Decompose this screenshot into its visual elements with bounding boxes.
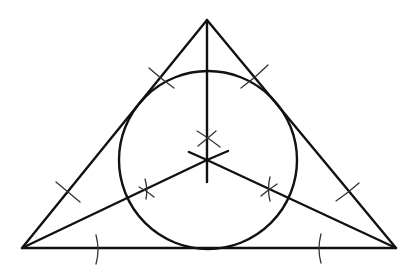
- construction-arc-base-left: [96, 235, 98, 264]
- bisector-extension-left: [189, 152, 207, 160]
- construction-arc-left-side-lower: [56, 182, 80, 202]
- bisector-extension-right: [207, 151, 228, 160]
- triangle: [22, 20, 396, 248]
- incircle-construction-diagram: [0, 0, 407, 273]
- angle-bisector-left: [22, 160, 207, 248]
- angle-bisector-right: [207, 160, 396, 248]
